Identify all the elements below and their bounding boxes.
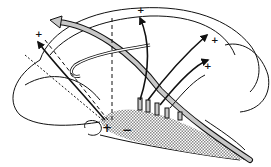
arrow-to-top-center (140, 18, 148, 100)
plus-label-right-lower: + (204, 62, 212, 71)
dashed-diagonal (45, 40, 108, 120)
brain-diagram (0, 0, 271, 167)
plus-label-top-center: + (137, 6, 145, 15)
tract-arrowhead (50, 16, 62, 28)
temporal-outline (13, 60, 100, 125)
plus-label-origin: + (102, 122, 112, 134)
cerebellum-outline (225, 44, 269, 112)
inner-loop (25, 77, 100, 100)
plus-label-right-upper: + (211, 36, 219, 45)
dotted-lower (25, 55, 105, 122)
arrow-to-top-left (38, 42, 105, 120)
plus-label-top-left: + (35, 30, 43, 39)
minus-label-origin: − (122, 124, 132, 136)
